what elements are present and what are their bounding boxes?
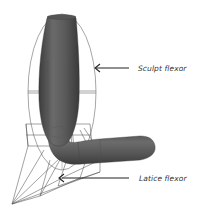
sculpt-flexor-arrow — [95, 64, 129, 72]
flexor-diagram: Sculpt flexor Latice flexor — [0, 0, 200, 218]
upper-arm-mesh — [39, 15, 79, 147]
sculpt-flexor-label: Sculpt flexor — [138, 64, 187, 73]
latice-flexor-arrow — [59, 174, 129, 182]
latice-flexor-label: Latice flexor — [139, 174, 187, 183]
diagram-canvas — [0, 0, 200, 218]
